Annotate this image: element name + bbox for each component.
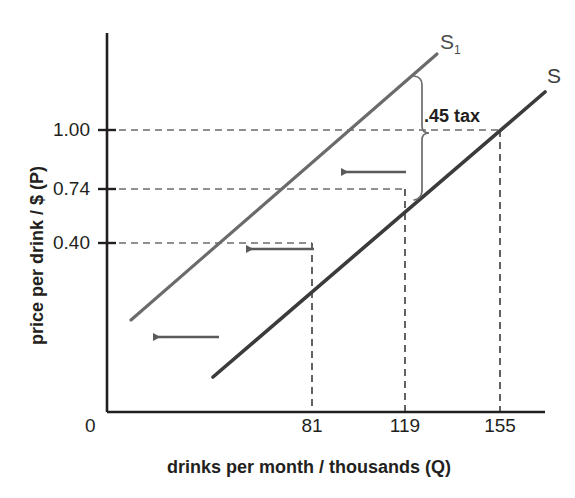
x-tick-label-155: 155 bbox=[470, 415, 530, 437]
curve-label-supply-original: S bbox=[547, 64, 561, 88]
y-axis-title: price per drink / $ (P) bbox=[27, 166, 48, 345]
curve-label-supply-shifted: S1 bbox=[440, 30, 461, 57]
x-tick-label-119: 119 bbox=[375, 415, 435, 437]
x-axis-title: drinks per month / thousands (Q) bbox=[167, 457, 451, 478]
x-tick-label-0: 0 bbox=[85, 415, 96, 437]
supply-curve-chart: 1.00 0.74 0.40 0 81 119 155 price per dr… bbox=[0, 0, 575, 498]
tax-annotation-label: .45 tax bbox=[424, 106, 480, 127]
curve-label-supply-shifted-subscript: 1 bbox=[454, 43, 461, 57]
supply-curve-shifted[interactable] bbox=[131, 54, 437, 320]
curve-label-supply-shifted-text: S bbox=[440, 30, 454, 53]
supply-curve-original[interactable] bbox=[213, 92, 545, 377]
tax-bracket-icon bbox=[414, 76, 429, 200]
x-tick-label-81: 81 bbox=[282, 415, 342, 437]
y-tick-label-1-00: 1.00 bbox=[30, 119, 90, 141]
